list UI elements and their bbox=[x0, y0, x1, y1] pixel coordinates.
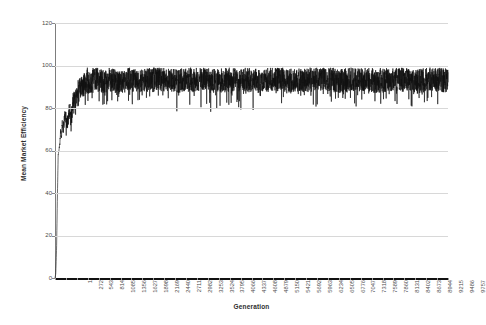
x-axis-tick-mark bbox=[77, 278, 78, 280]
x-axis-tick-mark bbox=[208, 278, 209, 280]
x-axis-tick-mark bbox=[350, 278, 351, 280]
x-axis-tick-mark bbox=[383, 278, 384, 280]
x-axis-title: Generation bbox=[55, 303, 448, 310]
x-axis-tick-mark bbox=[175, 278, 176, 280]
x-axis-tick-mark bbox=[339, 278, 340, 280]
x-axis-tick-mark bbox=[437, 278, 438, 280]
x-axis-tick-mark bbox=[110, 278, 111, 280]
gridline bbox=[55, 151, 448, 152]
x-axis-tick-mark bbox=[295, 278, 296, 280]
x-axis-tick-mark bbox=[262, 278, 263, 280]
y-axis-tick-label: 120 bbox=[26, 20, 52, 26]
x-axis-tick-mark bbox=[55, 278, 56, 280]
x-axis-tick-label: 9215 bbox=[459, 280, 465, 310]
x-axis-tick-mark bbox=[426, 278, 427, 280]
gridline bbox=[55, 236, 448, 237]
y-axis-tick-label: 60 bbox=[26, 147, 52, 153]
x-axis-tick-mark bbox=[121, 278, 122, 280]
x-axis-tick-mark bbox=[284, 278, 285, 280]
y-axis-tick-label: 100 bbox=[26, 62, 52, 68]
plot-area bbox=[55, 23, 448, 278]
x-axis-tick-mark bbox=[317, 278, 318, 280]
x-axis-tick-mark bbox=[372, 278, 373, 280]
x-axis-tick-mark bbox=[131, 278, 132, 280]
gridline bbox=[55, 108, 448, 109]
y-axis-tick-mark bbox=[52, 151, 55, 152]
x-axis-tick-mark bbox=[306, 278, 307, 280]
x-axis-tick-mark bbox=[361, 278, 362, 280]
x-axis-tick-label: 9486 bbox=[470, 280, 476, 310]
x-axis-tick-mark bbox=[219, 278, 220, 280]
series-polyline bbox=[55, 68, 448, 278]
y-axis-tick-label: 80 bbox=[26, 105, 52, 111]
x-axis-tick-mark bbox=[197, 278, 198, 280]
x-axis-tick-mark bbox=[241, 278, 242, 280]
y-axis-tick-labels: 020406080100120 bbox=[24, 0, 52, 325]
x-axis-tick-mark bbox=[252, 278, 253, 280]
x-axis-tick-mark bbox=[273, 278, 274, 280]
y-axis-tick-mark bbox=[52, 193, 55, 194]
x-axis-tick-mark bbox=[328, 278, 329, 280]
y-axis-tick-mark bbox=[52, 236, 55, 237]
y-axis-tick-mark bbox=[52, 23, 55, 24]
x-axis-tick-mark bbox=[88, 278, 89, 280]
y-axis-tick-label: 0 bbox=[26, 275, 52, 281]
x-axis-tick-mark bbox=[404, 278, 405, 280]
x-axis-tick-labels: 1272543814108513561627189821692440271129… bbox=[55, 280, 448, 304]
x-axis-tick-mark bbox=[186, 278, 187, 280]
y-axis-tick-mark bbox=[52, 278, 55, 279]
gridline bbox=[55, 193, 448, 194]
x-axis-tick-label: 9757 bbox=[481, 280, 486, 310]
x-axis-tick-mark bbox=[66, 278, 67, 280]
gridline bbox=[55, 66, 448, 67]
x-axis-tick-mark bbox=[393, 278, 394, 280]
x-axis-tick-mark bbox=[153, 278, 154, 280]
x-axis-tick-mark bbox=[415, 278, 416, 280]
x-axis-tick-mark bbox=[142, 278, 143, 280]
x-axis-tick-mark bbox=[164, 278, 165, 280]
x-axis-tick-mark bbox=[230, 278, 231, 280]
y-axis-tick-label: 40 bbox=[26, 190, 52, 196]
y-axis-tick-label: 20 bbox=[26, 232, 52, 238]
gridline bbox=[55, 23, 448, 24]
x-axis-tick-mark bbox=[448, 278, 449, 280]
x-axis-tick-mark bbox=[99, 278, 100, 280]
y-axis-tick-mark bbox=[52, 108, 55, 109]
x-axis-tick-label: 8944 bbox=[448, 280, 454, 310]
y-axis-tick-mark bbox=[52, 66, 55, 67]
